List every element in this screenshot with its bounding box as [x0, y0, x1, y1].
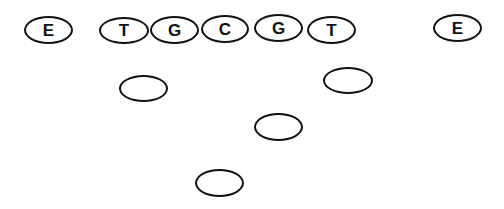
player-label: T	[326, 22, 336, 39]
player-left-back	[119, 75, 168, 102]
football-formation-diagram: E T G C G T E	[0, 0, 504, 209]
player-left-guard: G	[150, 16, 199, 44]
player-right-back	[323, 67, 373, 94]
player-right-end: E	[433, 14, 482, 42]
player-right-tackle: T	[307, 16, 356, 44]
player-deep-back	[195, 169, 244, 197]
player-left-end: E	[24, 16, 73, 44]
player-label: G	[168, 22, 181, 39]
player-center: C	[201, 15, 249, 43]
player-label: C	[219, 21, 231, 38]
player-label: E	[452, 20, 463, 37]
player-right-guard: G	[254, 14, 303, 42]
player-label: E	[43, 22, 54, 39]
player-middle-back	[254, 113, 303, 141]
player-label: T	[119, 22, 129, 39]
player-label: G	[272, 20, 285, 37]
player-left-tackle: T	[99, 17, 149, 44]
